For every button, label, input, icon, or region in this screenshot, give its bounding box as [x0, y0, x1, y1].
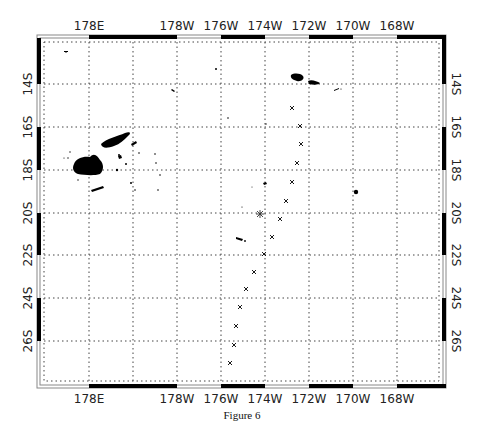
svg-text:168W: 168W	[380, 19, 415, 33]
svg-text:24S: 24S	[449, 287, 463, 310]
top-lon-labels: 178E 178W 176W 174W 172W 170W 168W	[74, 19, 415, 33]
svg-text:14S: 14S	[449, 73, 463, 96]
asterisk-marker	[256, 210, 264, 218]
svg-text:178E: 178E	[74, 392, 105, 406]
map-figure: 178E 178W 176W 174W 172W 170W 168W 178E …	[0, 0, 484, 426]
svg-text:16S: 16S	[21, 116, 35, 139]
svg-text:22S: 22S	[21, 244, 35, 267]
svg-text:170W: 170W	[336, 19, 371, 33]
upolu-island	[308, 80, 320, 84]
svg-text:176W: 176W	[204, 392, 239, 406]
svg-text:26S: 26S	[21, 330, 35, 353]
inner-frame	[40, 38, 443, 385]
left-lat-labels: 14S 16S 18S 20S 22S 24S 26S	[21, 73, 35, 353]
svg-text:178E: 178E	[74, 19, 105, 33]
figure-caption: Figure 6	[0, 409, 484, 421]
svg-text:174W: 174W	[248, 19, 283, 33]
svg-text:178W: 178W	[160, 19, 195, 33]
svg-text:170W: 170W	[336, 392, 371, 406]
svg-text:20S: 20S	[449, 202, 463, 225]
svg-text:26S: 26S	[449, 330, 463, 353]
svg-text:24S: 24S	[21, 287, 35, 310]
viti-levu-island	[73, 155, 103, 175]
svg-text:18S: 18S	[21, 159, 35, 182]
bottom-lon-labels: 178E 178W 176W 174W 172W 170W 168W	[74, 392, 415, 406]
svg-text:16S: 16S	[449, 116, 463, 139]
right-lat-labels: 14S 16S 18S 20S 22S 24S 26S	[449, 73, 463, 353]
savaii-island	[291, 74, 304, 82]
svg-text:14S: 14S	[21, 73, 35, 96]
svg-text:174W: 174W	[248, 392, 283, 406]
svg-text:168W: 168W	[380, 392, 415, 406]
svg-text:22S: 22S	[449, 244, 463, 267]
svg-text:20S: 20S	[21, 202, 35, 225]
outer-frame	[37, 35, 446, 388]
svg-text:172W: 172W	[292, 392, 327, 406]
svg-text:172W: 172W	[292, 19, 327, 33]
graticule	[44, 42, 439, 381]
svg-text:176W: 176W	[204, 19, 239, 33]
vanua-levu-island	[101, 132, 130, 147]
svg-text:178W: 178W	[160, 392, 195, 406]
svg-text:18S: 18S	[449, 159, 463, 182]
niue-island	[354, 190, 358, 194]
